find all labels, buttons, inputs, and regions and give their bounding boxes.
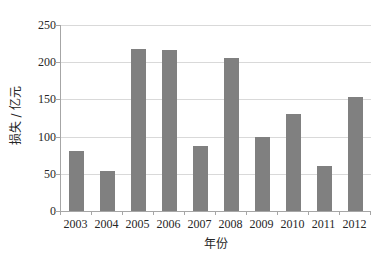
y-axis-tick-labels: 050100150200250 [26, 0, 56, 275]
x-axis-tick-label: 2007 [183, 217, 217, 231]
x-axis-tick-mark [91, 211, 92, 215]
x-axis-tick-label: 2011 [307, 217, 341, 231]
plot-area [60, 25, 371, 212]
bar [224, 58, 239, 211]
x-axis-tick-labels: 2003200420052006200720082009201020112012 [60, 217, 371, 233]
bar [162, 50, 177, 211]
x-axis-tick-label: 2005 [121, 217, 155, 231]
x-axis-tick-mark [122, 211, 123, 215]
y-axis-tick-label: 100 [26, 131, 56, 143]
y-axis-tick-label: 200 [26, 56, 56, 68]
bar-chart: 损失 / 亿元 050100150200250 2003200420052006… [0, 0, 380, 275]
x-axis-tick-marks [60, 211, 371, 216]
bar [100, 171, 115, 211]
x-axis-tick-mark [370, 211, 371, 215]
bar [255, 137, 270, 211]
x-axis-tick-mark [184, 211, 185, 215]
x-axis-tick-mark [246, 211, 247, 215]
bar [131, 49, 146, 211]
x-axis-tick-label: 2012 [338, 217, 372, 231]
x-axis-tick-label: 2004 [90, 217, 124, 231]
bar [193, 146, 208, 211]
x-axis-tick-mark [153, 211, 154, 215]
x-axis-tick-mark [308, 211, 309, 215]
y-axis-tick-label: 0 [26, 205, 56, 217]
x-axis-tick-mark [339, 211, 340, 215]
x-axis-tick-mark [277, 211, 278, 215]
y-axis-tick-label: 150 [26, 93, 56, 105]
bar [348, 97, 363, 211]
y-axis-title: 损失 / 亿元 [4, 50, 26, 180]
bar [69, 151, 84, 211]
bar [317, 166, 332, 211]
x-axis-tick-label: 2003 [59, 217, 93, 231]
x-axis-tick-mark [215, 211, 216, 215]
y-axis-tick-label: 250 [26, 19, 56, 31]
x-axis-title: 年份 [60, 234, 371, 251]
bars-layer [61, 25, 371, 211]
y-axis-title-text: 损失 / 亿元 [7, 85, 24, 145]
x-axis-tick-label: 2010 [276, 217, 310, 231]
y-axis-tick-label: 50 [26, 168, 56, 180]
x-axis-tick-label: 2008 [214, 217, 248, 231]
x-axis-tick-label: 2009 [245, 217, 279, 231]
x-axis-tick-label: 2006 [152, 217, 186, 231]
bar [286, 114, 301, 211]
x-axis-tick-mark [60, 211, 61, 215]
